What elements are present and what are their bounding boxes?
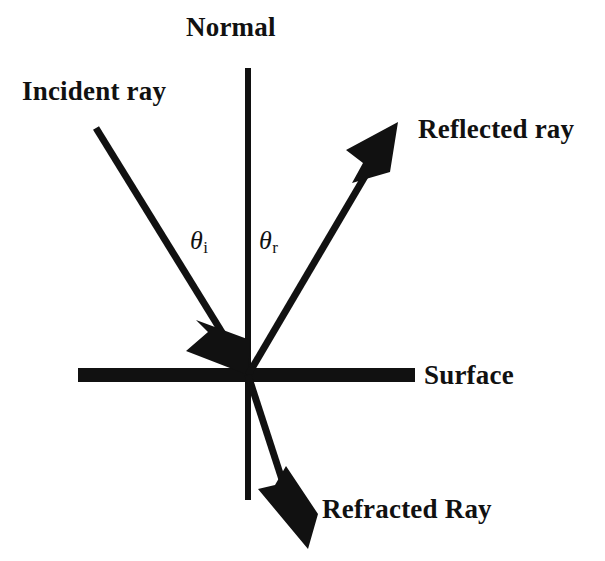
theta-symbol-reflection: θ [259, 226, 272, 255]
angle-of-reflection-label: θr [259, 228, 278, 256]
reflected-ray-line [248, 161, 374, 375]
theta-subscript-incidence: i [203, 238, 208, 257]
incident-ray-arrowhead [186, 320, 250, 375]
reflected-ray-arrowhead [346, 122, 398, 183]
surface-label: Surface [424, 362, 514, 389]
incident-ray-label: Incident ray [22, 78, 166, 105]
theta-symbol-incidence: θ [190, 226, 203, 255]
refracted-ray-arrowhead [258, 466, 318, 549]
reflection-refraction-diagram: Normal Incident ray Reflected ray Surfac… [0, 0, 605, 561]
angle-of-incidence-label: θi [190, 228, 208, 256]
refracted-ray-label: Refracted Ray [322, 496, 492, 523]
reflected-ray-label: Reflected ray [418, 116, 574, 143]
normal-label: Normal [186, 14, 276, 41]
theta-subscript-reflection: r [272, 238, 278, 257]
